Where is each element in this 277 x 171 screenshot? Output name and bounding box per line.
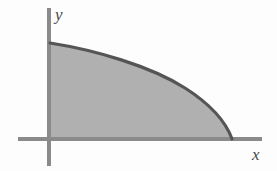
x-axis-label: x [252,146,260,163]
shaded-region [50,43,232,139]
graph-canvas [0,0,277,171]
y-axis-label: y [55,6,63,23]
figure-container: y x [0,0,277,171]
